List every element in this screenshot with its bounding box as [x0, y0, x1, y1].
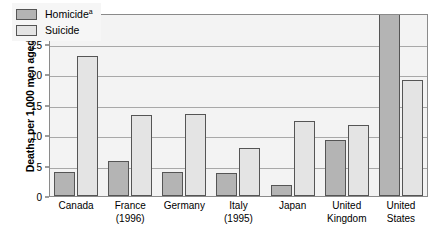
bar-group [375, 15, 428, 196]
bar-homicide-italy-1995 [216, 173, 237, 196]
bar-series-container [50, 15, 427, 196]
bar-homicide-germany [162, 172, 183, 196]
x-axis-label-japan: Japan [266, 200, 320, 213]
x-axis-label-canada: Canada [49, 200, 103, 213]
legend-swatch-homicide-icon [16, 9, 37, 20]
legend-label-suicide: Suicide [45, 24, 79, 36]
bar-homicide-france-1996 [108, 161, 129, 196]
bar-suicide-united-kingdom [348, 125, 369, 196]
bar-group [104, 15, 158, 196]
bar-suicide-italy-1995 [239, 148, 260, 196]
y-axis-tick-5: 5 [36, 161, 42, 172]
legend-label-homicide: Homicidea [45, 8, 93, 20]
x-axis-label-italy-1995: Italy(1995) [211, 200, 265, 225]
y-axis-tick-20: 20 [31, 70, 42, 81]
x-axis-label-line: States [374, 213, 428, 226]
y-axis-tick-10: 10 [31, 131, 42, 142]
bar-suicide-japan [294, 121, 315, 196]
bar-homicide-japan [271, 185, 292, 196]
bar-group [158, 15, 212, 196]
bar-suicide-germany [185, 114, 206, 196]
bar-group [321, 15, 375, 196]
plot-area [49, 14, 428, 197]
x-axis-label-line: Canada [49, 200, 103, 213]
bar-suicide-united-states [402, 80, 423, 196]
x-axis-label-line: (1996) [103, 213, 157, 226]
bar-group [267, 15, 321, 196]
x-axis-label-line: (1995) [211, 213, 265, 226]
y-axis-tick-15: 15 [31, 100, 42, 111]
bar-homicide-united-states [379, 14, 400, 196]
x-axis-label-line: United [374, 200, 428, 213]
legend-item-homicide: Homicidea [16, 6, 93, 22]
x-axis-label-line: Italy [211, 200, 265, 213]
chart-legend: Homicidea Suicide [12, 3, 101, 41]
x-axis-label-germany: Germany [157, 200, 211, 213]
bar-chart-figure: Deaths per 1,000 men aged 15–24 05101520… [0, 0, 437, 235]
bar-suicide-france-1996 [131, 115, 152, 196]
y-axis-tick-0: 0 [36, 192, 42, 203]
legend-swatch-suicide-icon [16, 25, 37, 36]
x-axis-category-labels: CanadaFrance(1996)GermanyItaly(1995)Japa… [49, 200, 428, 235]
x-axis-label-united-kingdom: UnitedKingdom [320, 200, 374, 225]
x-axis-label-united-states: UnitedStates [374, 200, 428, 225]
x-axis-label-line: France [103, 200, 157, 213]
bar-homicide-united-kingdom [325, 140, 346, 196]
bar-homicide-canada [54, 172, 75, 196]
legend-footnote-marker: a [89, 8, 93, 15]
x-axis-label-france-1996: France(1996) [103, 200, 157, 225]
legend-item-suicide: Suicide [16, 22, 93, 38]
x-axis-label-line: Japan [266, 200, 320, 213]
bar-group [212, 15, 266, 196]
bar-group [50, 15, 104, 196]
x-axis-label-line: Germany [157, 200, 211, 213]
x-axis-label-line: Kingdom [320, 213, 374, 226]
bar-suicide-canada [77, 56, 98, 196]
x-axis-label-line: United [320, 200, 374, 213]
